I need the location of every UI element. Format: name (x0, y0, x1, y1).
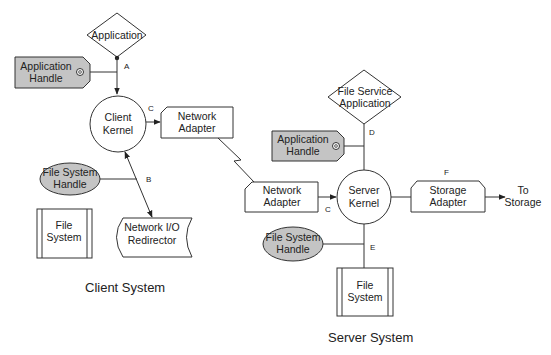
label-d: D (369, 128, 375, 137)
svg-text:Network: Network (263, 184, 302, 196)
label-c-server: C (325, 205, 331, 214)
client-system-title: Client System (85, 280, 165, 295)
svg-text:Handle: Handle (276, 243, 309, 255)
client-network-redirector: Network I/O Redirector (117, 218, 193, 257)
svg-text:File System: File System (43, 166, 98, 178)
network-link-lightning (218, 138, 254, 182)
svg-text:File Service: File Service (338, 85, 393, 97)
client-kernel-node: Client Kernel (90, 96, 146, 152)
svg-text:File: File (56, 219, 73, 231)
client-application-label: Application (91, 29, 143, 41)
svg-text:Network I/O: Network I/O (124, 221, 179, 233)
to-storage-label: To (517, 184, 528, 196)
svg-text:Application: Application (277, 133, 329, 145)
svg-text:Handle: Handle (53, 178, 86, 190)
server-application-handle: Application Handle (272, 131, 344, 161)
svg-text:Adapter: Adapter (430, 196, 467, 208)
label-e: E (370, 243, 375, 252)
svg-text:Network: Network (178, 110, 217, 122)
svg-text:Handle: Handle (286, 145, 319, 157)
label-c-client: C (148, 104, 154, 113)
svg-text:Kernel: Kernel (349, 197, 379, 209)
server-application-node: File Service Application (328, 70, 401, 124)
svg-text:Adapter: Adapter (179, 122, 216, 134)
svg-text:System: System (46, 231, 81, 243)
svg-text:Adapter: Adapter (264, 196, 301, 208)
client-application-node: Application (87, 13, 146, 57)
server-kernel-node: Server Kernel (337, 170, 391, 224)
svg-text:Application: Application (339, 97, 391, 109)
label-a: A (124, 62, 130, 71)
client-server-diagram: Application A Application Handle Client … (0, 0, 551, 355)
connector-b-line (125, 152, 152, 217)
svg-text:File System: File System (266, 231, 321, 243)
svg-text:Storage: Storage (430, 184, 467, 196)
client-fs-handle: File System Handle (40, 163, 100, 195)
client-file-system: File System (37, 209, 92, 258)
svg-text:Server: Server (349, 184, 380, 196)
server-file-system: File System (337, 268, 393, 316)
server-network-adapter: Network Adapter (245, 182, 318, 212)
server-storage-adapter: Storage Adapter (411, 181, 485, 212)
client-application-handle: Application Handle (15, 57, 90, 88)
label-f: F (444, 168, 449, 177)
to-storage-label-2: Storage (505, 196, 542, 208)
client-network-adapter: Network Adapter (161, 107, 233, 138)
svg-text:Kernel: Kernel (103, 124, 133, 136)
server-fs-handle: File System Handle (263, 227, 323, 261)
server-system-title: Server System (328, 330, 413, 345)
svg-text:Handle: Handle (29, 72, 62, 84)
svg-text:Client: Client (105, 111, 132, 123)
svg-text:File: File (357, 279, 374, 291)
label-b: B (146, 175, 151, 184)
svg-text:Redirector: Redirector (128, 234, 177, 246)
svg-text:Application: Application (20, 60, 72, 72)
svg-text:System: System (347, 291, 382, 303)
